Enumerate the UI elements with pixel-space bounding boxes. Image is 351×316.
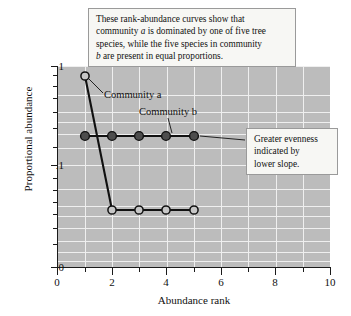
callout-top-line2-post: is dominated by one of five tree	[145, 26, 266, 36]
gridline-x-1	[85, 66, 86, 267]
x-tick-5	[194, 268, 195, 272]
x-axis-title: Abundance rank	[58, 294, 330, 306]
y-tick-0p09	[53, 178, 58, 179]
x-tick-9	[303, 268, 304, 272]
y-tick-label-0: 0	[59, 262, 65, 273]
callout-top-line4-post: are present in equal proportions.	[101, 51, 223, 61]
x-tick-label-10: 10	[315, 277, 345, 288]
y-tick-0p05	[53, 228, 58, 229]
series-label-community-a: Community a	[104, 89, 161, 100]
y-tick-0p7	[53, 98, 58, 99]
callout-right-line1: Greater evenness	[254, 134, 318, 144]
y-tick-label-1: 1	[59, 61, 65, 72]
y-tick-0p8	[53, 86, 58, 87]
y-tick-0p06	[53, 214, 58, 215]
callout-right-line2: indicated by	[254, 146, 300, 156]
gridline-x-4	[167, 66, 168, 267]
series-label-community-b: Community b	[139, 106, 197, 117]
x-tick-label-6: 6	[206, 277, 236, 288]
callout-right: Greater evenness indicated by lower slop…	[246, 128, 338, 175]
y-axis-title: Proportional abundance	[22, 69, 34, 209]
x-tick-7	[248, 268, 249, 272]
x-tick-3	[139, 268, 140, 272]
x-tick-4	[166, 268, 167, 275]
y-tick-1	[51, 66, 58, 67]
x-tick-10	[330, 268, 331, 275]
rank-abundance-figure: 1 .1 0 0 2 4 6 8 10 Proportional abundan…	[0, 0, 351, 316]
callout-top-line2-pre: community	[96, 26, 141, 36]
x-tick-label-2: 2	[97, 277, 127, 288]
y-tick-0p5	[53, 128, 58, 129]
y-tick-0p6	[53, 112, 58, 113]
callout-top-line3: species, while the five species in commu…	[96, 39, 262, 49]
callout-top: These rank-abundance curves show that co…	[88, 8, 296, 67]
y-tick-0p4	[53, 147, 58, 148]
x-tick-1	[85, 268, 86, 272]
x-tick-2	[112, 268, 113, 275]
x-tick-6	[221, 268, 222, 275]
y-tick-0p04	[53, 244, 58, 245]
y-tick-0p08	[53, 190, 58, 191]
x-tick-label-8: 8	[260, 277, 290, 288]
y-tick-label-0p1: .1	[56, 160, 64, 171]
callout-top-line1: These rank-abundance curves show that	[96, 14, 245, 24]
x-tick-8	[275, 268, 276, 275]
x-tick-label-4: 4	[151, 277, 181, 288]
y-tick-0p07	[53, 202, 58, 203]
x-tick-label-0: 0	[42, 277, 72, 288]
gridline-x-5	[194, 66, 195, 267]
gridline-x-6	[221, 66, 222, 267]
y-tick-0p9	[53, 75, 58, 76]
x-tick-0	[57, 268, 58, 275]
callout-right-line3: lower slope.	[254, 159, 299, 169]
